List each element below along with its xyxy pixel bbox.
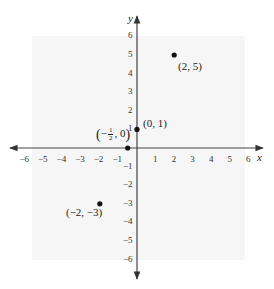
point-label-neg2-neg3: (−2, −3): [66, 207, 102, 218]
x-tick-label: 6: [246, 155, 251, 164]
x-tick-label: −2: [94, 155, 104, 164]
x-tick-label: 4: [209, 155, 214, 164]
fraction-one-half: 12: [108, 127, 114, 142]
y-tick-label: 3: [128, 87, 133, 96]
point-label-0-1: (0, 1): [143, 118, 167, 129]
y-tick-label: 2: [128, 106, 133, 115]
y-axis-label: y: [128, 13, 133, 24]
y-tick-label: −4: [123, 217, 133, 226]
x-tick-label: −5: [38, 155, 48, 164]
x-tick-label: −4: [57, 155, 67, 164]
x-tick-label: −3: [75, 155, 85, 164]
plotted-point: [172, 52, 177, 57]
x-tick-label: 3: [190, 155, 195, 164]
x-tick-label: −1: [112, 155, 122, 164]
y-tick-label: −1: [123, 162, 133, 171]
plotted-point: [125, 145, 130, 150]
x-tick-label: −6: [19, 155, 29, 164]
coordinate-plane: [0, 0, 274, 289]
y-tick-label: −3: [123, 199, 133, 208]
x-axis-label: x: [257, 152, 262, 163]
x-tick-label: 1: [153, 155, 158, 164]
y-tick-label: 4: [128, 69, 133, 78]
plotted-point: [134, 127, 139, 132]
x-tick-label: 2: [172, 155, 177, 164]
y-tick-label: −5: [123, 236, 133, 245]
y-tick-label: 6: [128, 31, 133, 40]
y-tick-label: −2: [123, 180, 133, 189]
y-tick-label: −6: [123, 255, 133, 264]
x-tick-label: 5: [228, 155, 233, 164]
point-label-2-5: (2, 5): [178, 61, 202, 72]
point-label-neg-half-0: (−12, 0): [96, 127, 130, 142]
y-tick-label: 5: [128, 50, 133, 59]
